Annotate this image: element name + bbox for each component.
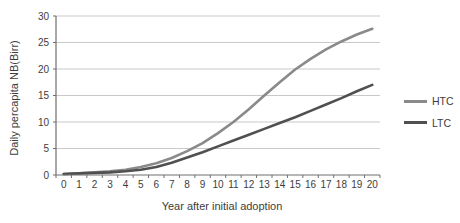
- legend-label-ltc: LTC: [432, 118, 451, 129]
- x-tick-label: 20: [367, 179, 379, 190]
- series-line-htc: [64, 29, 373, 174]
- ltc-line-swatch: [404, 121, 427, 124]
- y-tick-label: 10: [38, 117, 50, 128]
- x-tick-label: 19: [351, 179, 363, 190]
- legend: HTC LTC: [404, 96, 454, 128]
- gridlines: [56, 16, 380, 149]
- x-tick-label: 17: [320, 179, 332, 190]
- chart-canvas: 0123456789101112131415161718192005101520…: [0, 0, 460, 223]
- x-tick-label: 16: [305, 179, 317, 190]
- legend-label-htc: HTC: [432, 96, 454, 107]
- x-tick-label: 8: [184, 179, 190, 190]
- axes: 0123456789101112131415161718192005101520…: [38, 11, 380, 191]
- x-tick-label: 6: [154, 179, 160, 190]
- x-tick-label: 14: [274, 179, 286, 190]
- x-tick-label: 10: [212, 179, 224, 190]
- line-chart-figure: 0123456789101112131415161718192005101520…: [0, 0, 460, 223]
- y-tick-label: 20: [38, 64, 50, 75]
- series-lines: [64, 29, 373, 174]
- x-tick-label: 3: [107, 179, 113, 190]
- x-tick-label: 7: [169, 179, 175, 190]
- htc-line-swatch: [404, 100, 427, 103]
- x-tick-label: 1: [76, 179, 82, 190]
- y-axis-title: Daily percapita NB(Birr): [8, 40, 20, 156]
- series-line-ltc: [64, 85, 373, 174]
- y-tick-label: 0: [43, 170, 49, 181]
- y-tick-label: 5: [43, 143, 49, 154]
- y-tick-label: 30: [38, 11, 50, 22]
- x-tick-label: 5: [138, 179, 144, 190]
- x-tick-label: 15: [290, 179, 302, 190]
- x-tick-label: 2: [92, 179, 98, 190]
- x-tick-label: 11: [228, 179, 239, 190]
- x-tick-label: 9: [200, 179, 206, 190]
- x-tick-label: 4: [123, 179, 129, 190]
- x-tick-label: 13: [259, 179, 271, 190]
- x-tick-label: 0: [61, 179, 67, 190]
- x-tick-label: 12: [243, 179, 255, 190]
- y-tick-label: 25: [38, 37, 50, 48]
- x-axis-title: Year after initial adoption: [162, 200, 283, 212]
- x-tick-label: 18: [336, 179, 348, 190]
- legend-item-ltc: LTC: [404, 118, 454, 129]
- legend-item-htc: HTC: [404, 96, 454, 107]
- y-tick-label: 15: [38, 90, 50, 101]
